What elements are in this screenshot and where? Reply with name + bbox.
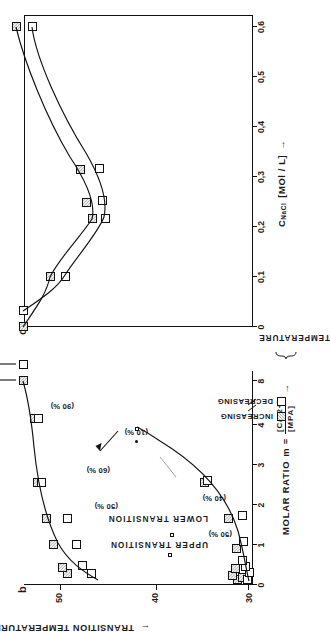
- panel-b-xlabel-arrow: →: [280, 383, 291, 393]
- data-point-inc: [46, 272, 55, 281]
- data-point-inc: [76, 165, 85, 174]
- panel-b-xlabel-symbol: m =: [280, 438, 291, 457]
- panel-c-xlabel-arrow: →: [276, 140, 287, 150]
- data-point-dec: [63, 514, 72, 523]
- region-label-upper-transition: UPPER TRANSITION: [110, 540, 208, 549]
- data-point-dec: [72, 540, 81, 549]
- leader-line-lower-transition: [160, 457, 176, 477]
- data-point-inc: [88, 214, 97, 223]
- panel-c-x-axis-label: C NaCl [MOl / L] →: [276, 140, 287, 227]
- curve-panel-c-decreasing: [23, 27, 105, 311]
- data-point-inc: [231, 564, 240, 573]
- region-label-lower-transition: LOWER TRANSITION: [108, 514, 208, 523]
- panel-c-xtick-03: 0,3: [256, 167, 266, 187]
- data-point-dec: [19, 306, 28, 315]
- annotation-arrowhead-upper: [96, 443, 102, 451]
- legend-label-increasing: INCREASING: [220, 412, 273, 421]
- y-axis-label: ← TRANSITION TEMPERATURE, t, [°C]: [0, 623, 150, 633]
- data-point-small: [168, 553, 172, 557]
- legend-bracket-label-temperature: TEMPERATURE: [258, 333, 330, 342]
- data-point-dec: [37, 478, 46, 487]
- curve-panel-c-increasing: [16, 27, 93, 327]
- panel-c-x-axis: [252, 15, 253, 327]
- panel-b-ytick-mark-50: [60, 585, 61, 590]
- annotation-40-percent: (40 %): [202, 494, 226, 503]
- annotation-50-percent-upper: (50 %): [94, 502, 118, 511]
- annotation-60-percent: (60 %): [86, 466, 110, 475]
- legend-item-decreasing: DECREASING: [217, 397, 286, 406]
- panel-b-xlabel-denominator: [MPA]: [286, 397, 295, 434]
- data-point-dec: [238, 511, 247, 520]
- panel-b-ytick-mark-40: [156, 585, 157, 590]
- panel-c-xlabel-unit: [MOl / L]: [276, 155, 287, 198]
- panel-b-ytick-50: 50: [54, 593, 64, 615]
- legend-item-increasing: INCREASING: [220, 412, 286, 421]
- legend-brace: [276, 352, 296, 359]
- panel-b-ytick-mark-30: [248, 585, 249, 590]
- panel-c-xtick-02: 0,2: [256, 217, 266, 237]
- data-point-inc: [58, 563, 67, 572]
- annotation-90-percent: (90 %): [50, 402, 74, 411]
- data-point-dec: [28, 22, 37, 31]
- panel-b-xtick-2: 2: [256, 495, 266, 515]
- panel-b-letter: b: [16, 586, 28, 593]
- panel-b-xtick-8: 8: [256, 371, 266, 391]
- data-point-dec: [87, 569, 96, 578]
- panel-b-xtick-1: 1: [256, 535, 266, 555]
- y-axis-arrow: ←: [134, 623, 150, 633]
- curve-lower-transition: [137, 427, 249, 581]
- curves-overlay: [0, 0, 313, 627]
- data-point-dec: [19, 360, 28, 369]
- data-point-dec: [239, 537, 248, 546]
- panel-c-xtick-01: 0,1: [256, 267, 266, 287]
- panel-c-xtick-06: 0,6: [256, 17, 266, 37]
- data-point-inc: [82, 198, 91, 207]
- panel-b-xtick-0: 0: [256, 575, 266, 595]
- data-point-inc: [19, 322, 28, 331]
- panel-c-right-frame: [24, 15, 252, 16]
- panel-c-xtick-05: 0,5: [256, 67, 266, 87]
- annotation-10-percent: (10 %): [124, 428, 148, 437]
- data-point-inc: [42, 514, 51, 523]
- data-point-dec: [98, 196, 107, 205]
- data-point-inc: [19, 376, 28, 385]
- panel-c-xlabel-symbol: C: [276, 220, 287, 227]
- panel-c-xlabel-subscript: NaCl: [280, 203, 288, 220]
- annotation-arrow-upper: [100, 431, 118, 451]
- panel-c-y-axis: [24, 326, 252, 327]
- data-point-dot: [135, 440, 138, 443]
- data-point-dec: [34, 414, 43, 423]
- data-point-dec: [203, 476, 212, 485]
- annotation-50-percent-lower: (50 %): [208, 530, 232, 539]
- legend-label-decreasing: DECREASING: [217, 397, 273, 406]
- data-point-inc: [12, 22, 21, 31]
- scientific-figure: ← TRANSITION TEMPERATURE, t, [°C] b 50 4…: [0, 0, 313, 627]
- panel-c-top-frame: [24, 15, 25, 327]
- legend-swatch-increasing: [277, 412, 286, 421]
- panel-b-ytick-40: 40: [150, 593, 160, 615]
- panel-b-y-axis: [24, 584, 252, 585]
- panel-b-xtick-3: 3: [256, 455, 266, 475]
- panel-c-xlabel-symbolgroup: C NaCl: [276, 203, 287, 227]
- data-point-inc: [49, 540, 58, 549]
- data-point-dec: [101, 214, 110, 223]
- data-point-dec: [61, 272, 70, 281]
- data-point-dec: [78, 561, 87, 570]
- data-point-dec: [238, 556, 247, 565]
- panel-c-xtick-04: 0,4: [256, 117, 266, 137]
- data-point-inc: [224, 514, 233, 523]
- panel-b-xlabel-prefix: MOLAR RATIO: [280, 461, 291, 535]
- data-point-dec: [95, 164, 104, 173]
- figure-rotation-wrapper: ← TRANSITION TEMPERATURE, t, [°C] b 50 4…: [0, 0, 313, 627]
- legend-swatch-decreasing: [277, 397, 286, 406]
- panel-b-ytick-30: 30: [244, 593, 254, 615]
- data-point-small: [170, 533, 174, 537]
